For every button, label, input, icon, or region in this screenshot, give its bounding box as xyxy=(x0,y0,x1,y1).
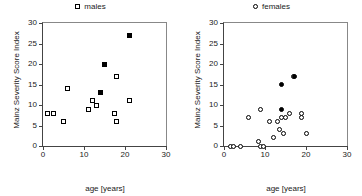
data-point xyxy=(287,111,292,116)
y-tick-label: 10 xyxy=(209,101,218,109)
data-point xyxy=(279,107,284,112)
data-point xyxy=(231,144,236,149)
x-axis-label-males: age [years] xyxy=(40,184,170,194)
x-ticks-males: 0102030 xyxy=(43,23,166,146)
x-tick-label: 0 xyxy=(41,151,45,159)
y-tick-label: 5 xyxy=(214,122,218,130)
x-tick-label: 10 xyxy=(80,151,89,159)
x-tick-label: 0 xyxy=(222,151,226,159)
y-tick-label: 25 xyxy=(28,40,37,48)
data-point xyxy=(86,107,91,112)
panel-females: females Mainz Severity Score Index 05101… xyxy=(181,0,362,196)
x-tick-label: 20 xyxy=(302,151,311,159)
legend-open-circle-icon xyxy=(253,4,258,9)
data-point xyxy=(114,74,119,79)
data-point xyxy=(127,33,132,38)
y-tick-label: 20 xyxy=(28,60,37,68)
x-tick-label: 30 xyxy=(343,151,352,159)
data-point xyxy=(279,82,284,87)
x-axis-label-females: age [years] xyxy=(221,184,351,194)
y-tick-label: 0 xyxy=(214,142,218,150)
y-tick-label: 15 xyxy=(28,81,37,89)
data-point xyxy=(261,144,266,149)
data-point xyxy=(267,119,272,124)
data-point xyxy=(304,131,309,136)
data-point xyxy=(114,119,119,124)
x-ticks-females: 0102030 xyxy=(224,23,347,146)
legend-label-females: females xyxy=(262,2,290,11)
data-point xyxy=(51,111,56,116)
y-tick-label: 10 xyxy=(28,101,37,109)
y-tick-label: 30 xyxy=(209,19,218,27)
data-point xyxy=(45,111,50,116)
x-tick-label: 10 xyxy=(261,151,270,159)
plot-area-males: 051015202530 0102030 xyxy=(42,22,167,147)
data-point xyxy=(275,119,280,124)
y-tick-label: 15 xyxy=(209,81,218,89)
y-tick-label: 25 xyxy=(209,40,218,48)
data-point xyxy=(112,111,117,116)
legend-females: females xyxy=(181,2,362,11)
y-axis-label-males: Mainz Severity Score Index xyxy=(11,20,22,140)
legend-open-square-icon xyxy=(75,4,80,9)
y-tick-label: 30 xyxy=(28,19,37,27)
data-point xyxy=(61,119,66,124)
data-point xyxy=(102,62,107,67)
plot-area-females: 051015202530 0102030 xyxy=(223,22,348,147)
data-point xyxy=(94,103,99,108)
scatter-figure: males Mainz Severity Score Index 0510152… xyxy=(0,0,362,196)
x-tick-label: 30 xyxy=(162,151,171,159)
legend-males: males xyxy=(0,2,181,11)
legend-label-males: males xyxy=(84,2,105,11)
y-axis-label-females: Mainz Severity Score Index xyxy=(192,20,203,140)
data-point xyxy=(246,115,251,120)
y-tick-label: 0 xyxy=(33,142,37,150)
data-point xyxy=(238,144,243,149)
y-tick-label: 20 xyxy=(209,60,218,68)
data-point xyxy=(98,90,103,95)
y-tick-label: 5 xyxy=(33,122,37,130)
x-tick-label: 20 xyxy=(121,151,130,159)
panel-males: males Mainz Severity Score Index 0510152… xyxy=(0,0,181,196)
data-point xyxy=(127,98,132,103)
data-point xyxy=(65,86,70,91)
